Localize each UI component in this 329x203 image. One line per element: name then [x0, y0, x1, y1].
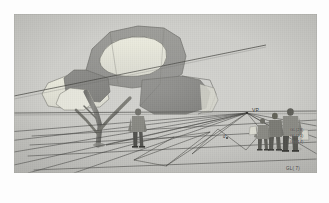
label-ground-line-7: GL( 7) — [286, 166, 300, 171]
label-ground-line-14: GL(14) — [290, 139, 304, 144]
label-ground-line-21: GL(21) — [290, 133, 304, 138]
vanishing-point-marker — [246, 112, 248, 114]
figure-plate: VP d GL(28) GL(21) GL(14) GL( 7) — [14, 14, 317, 173]
perspective-drawing — [14, 14, 317, 173]
diagonal-point-marker — [226, 137, 228, 139]
label-diagonal-point: d — [223, 134, 226, 139]
label-vanishing-point: VP — [252, 107, 259, 113]
figure-page: VP d GL(28) GL(21) GL(14) GL( 7) — [0, 0, 329, 203]
label-ground-line-28: GL(28) — [290, 127, 304, 132]
